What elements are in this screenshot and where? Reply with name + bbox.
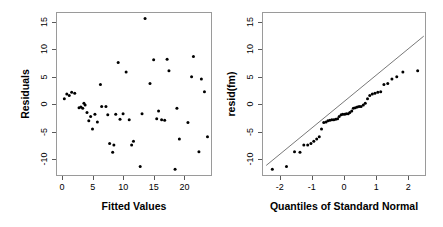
x-tick-label: 10 — [118, 183, 128, 192]
data-point — [85, 111, 88, 114]
scatter-points-left — [57, 13, 213, 177]
data-point — [128, 118, 131, 121]
data-point — [376, 91, 379, 94]
data-point — [114, 113, 117, 116]
data-point — [178, 138, 181, 141]
data-point — [371, 92, 374, 95]
y-tick-mark — [52, 77, 56, 78]
x-tick-label: 15 — [149, 183, 159, 192]
y-tick-mark — [52, 104, 56, 105]
data-point — [197, 150, 200, 153]
panel-qq-normal: -2-1012-10-5051015 Quantiles of Standard… — [222, 0, 443, 227]
data-point — [125, 70, 128, 73]
data-point — [416, 69, 419, 72]
data-point — [285, 165, 288, 168]
data-point — [81, 107, 84, 110]
x-tick-label: 20 — [179, 183, 189, 192]
data-point — [152, 58, 155, 61]
data-point — [130, 144, 133, 147]
data-point — [91, 128, 94, 131]
x-tick-label: 1 — [374, 183, 379, 192]
y-tick-label: 10 — [246, 44, 255, 54]
plot-frame-right — [262, 12, 426, 176]
y-tick-label: 0 — [246, 102, 255, 107]
x-tick-mark — [376, 176, 377, 180]
data-point — [68, 94, 71, 97]
data-point — [203, 90, 206, 93]
data-point — [364, 102, 367, 105]
data-point — [390, 78, 393, 81]
panel-residuals-vs-fitted: 05101520-10-5051015 Fitted Values Residu… — [0, 0, 221, 227]
x-tick-mark — [280, 176, 281, 180]
data-point — [309, 142, 312, 145]
data-point — [186, 121, 189, 124]
data-point — [157, 109, 160, 112]
y-tick-label: 5 — [40, 74, 49, 79]
y-tick-mark — [258, 77, 262, 78]
x-tick-mark — [312, 176, 313, 180]
data-point — [139, 165, 142, 168]
data-point — [320, 128, 323, 131]
data-point — [93, 113, 96, 116]
x-tick-mark — [344, 176, 345, 180]
x-tick-label: 5 — [90, 183, 95, 192]
y-tick-label: 10 — [40, 44, 49, 54]
x-tick-mark — [154, 176, 155, 180]
y-tick-label: 15 — [246, 17, 255, 27]
y-tick-mark — [258, 159, 262, 160]
y-axis-title-left: Residuals — [19, 69, 31, 119]
data-point — [160, 118, 163, 121]
data-point — [318, 135, 321, 138]
y-tick-label: 5 — [246, 74, 255, 79]
y-tick-label: 0 — [40, 102, 49, 107]
data-point — [112, 144, 115, 147]
data-point — [271, 168, 274, 171]
data-point — [108, 142, 111, 145]
data-point — [104, 105, 107, 108]
data-point — [306, 144, 309, 147]
data-point — [401, 70, 404, 73]
data-point — [63, 97, 66, 100]
data-point — [122, 112, 125, 115]
data-point — [148, 82, 151, 85]
x-tick-mark — [93, 176, 94, 180]
data-point — [70, 91, 73, 94]
data-point — [175, 107, 178, 110]
x-tick-label: -2 — [276, 183, 284, 192]
qq-points-and-line — [263, 13, 427, 177]
data-point — [350, 109, 353, 112]
y-tick-label: 15 — [40, 17, 49, 27]
data-point — [368, 94, 371, 97]
data-point — [117, 61, 120, 64]
data-point — [312, 140, 315, 143]
data-point — [166, 58, 169, 61]
data-point — [73, 92, 76, 95]
data-point — [386, 82, 389, 85]
data-point — [144, 17, 147, 20]
qq-reference-line — [266, 36, 424, 165]
data-point — [190, 75, 193, 78]
data-point — [132, 140, 135, 143]
data-point — [84, 103, 87, 106]
data-point — [200, 78, 203, 81]
y-tick-mark — [52, 132, 56, 133]
x-tick-label: -1 — [308, 183, 316, 192]
x-tick-label: 2 — [406, 183, 411, 192]
data-point — [89, 115, 92, 118]
x-axis-title-right: Quantiles of Standard Normal — [270, 200, 418, 212]
data-point — [65, 92, 68, 95]
y-tick-label: -10 — [40, 153, 49, 166]
x-tick-label: 0 — [60, 183, 65, 192]
y-tick-mark — [52, 159, 56, 160]
y-axis-title-right: resid(fm) — [225, 72, 237, 117]
y-tick-label: -10 — [246, 153, 255, 166]
data-point — [366, 97, 369, 100]
data-point — [119, 118, 122, 121]
data-point — [192, 55, 195, 58]
data-point — [373, 92, 376, 95]
data-point — [87, 119, 90, 122]
figure-container: 05101520-10-5051015 Fitted Values Residu… — [0, 0, 443, 227]
y-tick-mark — [258, 104, 262, 105]
data-point — [141, 112, 144, 115]
data-point — [302, 144, 305, 147]
